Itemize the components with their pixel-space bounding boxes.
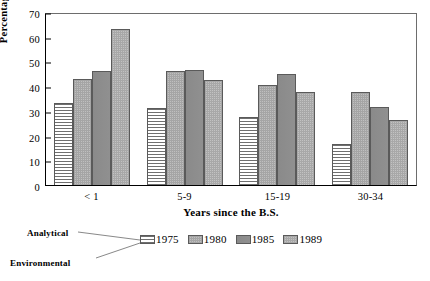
bar-chart-figure: Percentage 010203040506070 < 15-915-1930…: [0, 0, 430, 281]
callout-leader-lines: [0, 0, 430, 281]
